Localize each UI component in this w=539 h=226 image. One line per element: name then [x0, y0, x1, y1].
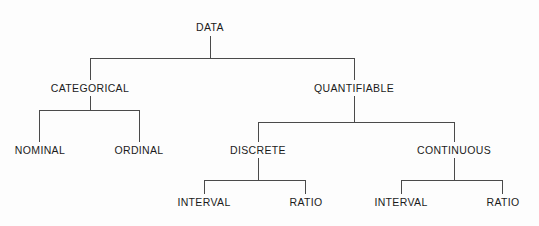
- edge-level1-right-leg: [354, 58, 355, 80]
- edge-categorical-bar: [39, 110, 140, 111]
- node-categorical: CATEGORICAL: [51, 82, 129, 94]
- edge-continuous-interval-leg: [401, 180, 402, 194]
- edge-discrete-interval-leg: [204, 180, 205, 194]
- edge-continuous-ratio-leg: [502, 180, 503, 194]
- edge-level1-bar: [90, 58, 354, 59]
- data-classification-tree: DATA CATEGORICAL QUANTIFIABLE NOMINAL OR…: [0, 0, 539, 226]
- node-nominal: NOMINAL: [15, 144, 65, 156]
- edge-discrete-ratio-leg: [305, 180, 306, 194]
- edge-discrete-bar: [204, 180, 306, 181]
- node-ordinal: ORDINAL: [114, 144, 163, 156]
- node-quantifiable: QUANTIFIABLE: [314, 82, 394, 94]
- node-discrete-interval: INTERVAL: [177, 196, 230, 208]
- edge-nominal-leg: [39, 110, 40, 142]
- node-continuous: CONTINUOUS: [417, 144, 491, 156]
- edge-data-stem: [210, 36, 211, 59]
- edge-ordinal-leg: [139, 110, 140, 142]
- node-discrete: DISCRETE: [230, 144, 286, 156]
- node-continuous-ratio: RATIO: [486, 196, 519, 208]
- node-discrete-ratio: RATIO: [289, 196, 322, 208]
- edge-continuous-leg: [454, 122, 455, 142]
- edge-quantifiable-stem: [354, 96, 355, 123]
- node-continuous-interval: INTERVAL: [374, 196, 427, 208]
- edge-continuous-stem: [454, 158, 455, 181]
- node-data: DATA: [196, 21, 224, 33]
- edge-continuous-bar: [401, 180, 503, 181]
- edge-level1-left-leg: [90, 58, 91, 80]
- edge-categorical-stem: [90, 96, 91, 111]
- edge-quantifiable-bar: [258, 122, 454, 123]
- edge-discrete-stem: [258, 158, 259, 181]
- edge-discrete-leg: [258, 122, 259, 142]
